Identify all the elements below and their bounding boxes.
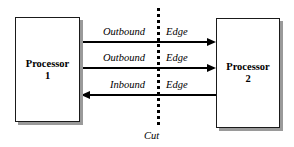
cut-label: Cut <box>144 130 159 142</box>
processor-1-node: Processor 1 <box>15 17 80 122</box>
processor-1-label: Processor <box>26 58 70 70</box>
edge-3-line <box>81 94 216 96</box>
processor-2-label: Processor <box>226 61 270 73</box>
edge-2-direction-label: Outbound <box>103 52 145 64</box>
edge-2-arrowhead-right-icon <box>207 64 216 72</box>
edge-2-line <box>80 67 214 69</box>
processor-2-node: Processor 2 <box>216 18 280 128</box>
cut-dotted-line <box>157 8 160 126</box>
edge-3-kind-label: Edge <box>166 79 188 91</box>
edge-1-direction-label: Outbound <box>103 26 145 38</box>
edge-3-direction-label: Inbound <box>110 79 145 91</box>
processor-2-number: 2 <box>245 73 250 85</box>
processor-1-number: 1 <box>45 70 50 82</box>
edge-2-kind-label: Edge <box>166 52 188 64</box>
edge-1-line <box>80 41 214 43</box>
edge-1-kind-label: Edge <box>166 26 188 38</box>
diagram-canvas: Processor 1 Processor 2 Outbound Edge Ou… <box>0 0 294 147</box>
edge-3-arrowhead-left-icon <box>81 91 90 99</box>
edge-1-arrowhead-right-icon <box>207 38 216 46</box>
